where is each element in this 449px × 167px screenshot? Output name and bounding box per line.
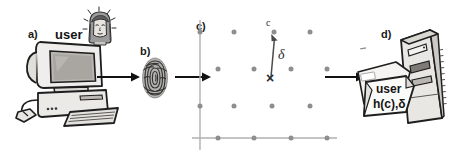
fingerprint-icon	[140, 56, 170, 100]
server-and-documents-group: •••• user h(c),δ	[352, 28, 447, 128]
lattice-dot	[289, 67, 294, 72]
figure-canvas: a) user	[0, 0, 449, 167]
delta-vector-arrowhead	[271, 34, 277, 41]
lattice-dot	[198, 104, 203, 109]
document-back-scribble: ••••	[360, 45, 367, 52]
document-line-user: user	[376, 82, 401, 96]
document-line-hash: h(c),δ	[373, 97, 406, 111]
lattice-dot-c	[272, 30, 277, 35]
lattice-dot	[216, 67, 221, 72]
lattice-dot	[325, 136, 330, 141]
desktop-computer-icon	[14, 38, 122, 130]
lattice-dot	[289, 136, 294, 141]
lattice-dot	[252, 67, 257, 72]
lattice-dot	[308, 30, 313, 35]
lattice-dot	[232, 30, 237, 35]
lattice-dot	[216, 136, 221, 141]
lattice-dot	[252, 136, 257, 141]
lattice-marker-x: ×	[266, 70, 274, 86]
lattice-dot	[270, 104, 275, 109]
lattice-dot	[308, 104, 313, 109]
lattice-label-delta: δ	[278, 47, 285, 63]
lattice-dot	[198, 30, 203, 35]
arrow-a-to-b-icon	[96, 70, 142, 84]
lattice-dot	[232, 104, 237, 109]
lattice-diagram: c δ ×	[192, 14, 337, 154]
lattice-label-c: c	[266, 17, 270, 28]
